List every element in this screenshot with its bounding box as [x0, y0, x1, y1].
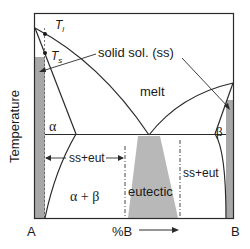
ss-eut-right-label: ss+eut — [183, 166, 219, 180]
ss-eut-left-label: ss+eut — [69, 151, 105, 165]
eutectic-region — [128, 136, 178, 218]
t-liquidus-label: Tl — [55, 18, 64, 34]
solid-solution-label: solid sol. (ss) — [98, 45, 174, 60]
alpha-label: α — [49, 119, 57, 134]
y-axis-label: Temperature — [7, 90, 22, 163]
beta-label: β — [216, 124, 223, 139]
x-axis-right-label: B — [231, 224, 240, 239]
eutectic-label: eutectic — [128, 184, 173, 199]
phase-diagram: Tl Ts solid sol. (ss) melt α β ss+eut α … — [0, 0, 250, 249]
melt-label: melt — [140, 84, 165, 99]
liquidus-point — [43, 32, 47, 36]
alpha-beta-label: α + β — [70, 189, 99, 204]
x-axis-left-label: A — [27, 224, 36, 239]
x-axis-label: %B — [112, 224, 132, 239]
solidus-point — [43, 51, 47, 55]
alpha-solid-solution-bar — [35, 57, 45, 219]
t-solidus-label: Ts — [51, 49, 62, 65]
ss-eut-left-arrowhead-r — [118, 155, 124, 161]
beta-solid-solution-bar — [226, 100, 233, 219]
solvus-left-curve — [45, 134, 76, 218]
composition-arrowhead — [172, 227, 179, 233]
ss-eut-left-arrowhead-l — [45, 155, 51, 161]
